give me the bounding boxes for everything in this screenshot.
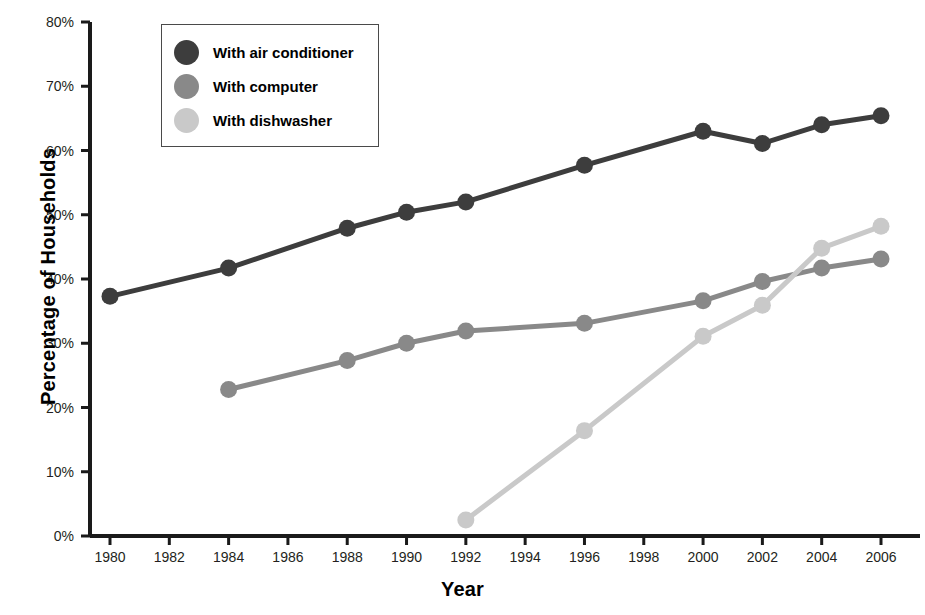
x-tick-label: 2002 xyxy=(747,549,778,565)
data-point-marker xyxy=(398,335,415,352)
x-tick-label: 1992 xyxy=(450,549,481,565)
data-point-marker xyxy=(576,157,593,174)
data-point-marker xyxy=(754,273,771,290)
data-point-marker xyxy=(220,381,237,398)
x-tick-label: 1990 xyxy=(391,549,422,565)
data-point-marker xyxy=(576,315,593,332)
data-point-marker xyxy=(873,218,890,235)
data-point-marker xyxy=(754,135,771,152)
legend-entry-label: With dishwasher xyxy=(213,112,332,129)
plot-area xyxy=(0,0,925,615)
series-line xyxy=(229,259,881,389)
x-tick-label: 1982 xyxy=(154,549,185,565)
data-point-marker xyxy=(873,107,890,124)
legend-entry[interactable]: With computer xyxy=(174,71,318,101)
legend-entry-label: With air conditioner xyxy=(213,44,354,61)
y-tick-label: 10% xyxy=(8,464,74,480)
series-markers xyxy=(102,107,890,528)
x-tick-label: 1980 xyxy=(94,549,125,565)
x-axis-title: Year xyxy=(0,578,925,601)
data-point-marker xyxy=(813,260,830,277)
x-tick-label: 1994 xyxy=(510,549,541,565)
line-chart: 0%10%20%30%40%50%60%70%80% 1980198219841… xyxy=(0,0,925,615)
data-point-marker xyxy=(695,328,712,345)
data-point-marker xyxy=(754,297,771,314)
data-point-marker xyxy=(457,193,474,210)
y-tick-label: 80% xyxy=(8,14,74,30)
data-point-marker xyxy=(873,251,890,268)
x-tick-label: 2000 xyxy=(687,549,718,565)
data-point-marker xyxy=(695,123,712,140)
y-tick-label: 70% xyxy=(8,78,74,94)
x-tick-label: 2006 xyxy=(865,549,896,565)
data-point-marker xyxy=(457,511,474,528)
x-tick-label: 1988 xyxy=(332,549,363,565)
data-point-marker xyxy=(813,116,830,133)
legend: With air conditionerWith computerWith di… xyxy=(161,24,379,147)
series-lines xyxy=(110,116,881,520)
data-point-marker xyxy=(398,204,415,221)
x-tick-label: 1998 xyxy=(628,549,659,565)
filled-circle-marker-icon xyxy=(174,40,199,65)
data-point-marker xyxy=(576,422,593,439)
filled-circle-marker-icon xyxy=(174,108,199,133)
x-tick-label: 1984 xyxy=(213,549,244,565)
data-point-marker xyxy=(695,292,712,309)
data-point-marker xyxy=(457,323,474,340)
y-tick-label: 0% xyxy=(8,528,74,544)
x-tick-label: 1996 xyxy=(569,549,600,565)
x-tick-label: 2004 xyxy=(806,549,837,565)
filled-circle-marker-icon xyxy=(174,74,199,99)
data-point-marker xyxy=(339,352,356,369)
legend-entry-label: With computer xyxy=(213,78,318,95)
data-point-marker xyxy=(339,220,356,237)
legend-entry[interactable]: With air conditioner xyxy=(174,37,354,67)
data-point-marker xyxy=(813,240,830,257)
legend-entry[interactable]: With dishwasher xyxy=(174,105,332,135)
data-point-marker xyxy=(220,260,237,277)
x-tick-label: 1986 xyxy=(272,549,303,565)
y-axis-title: Percentage of Households xyxy=(37,97,60,457)
data-point-marker xyxy=(102,288,119,305)
